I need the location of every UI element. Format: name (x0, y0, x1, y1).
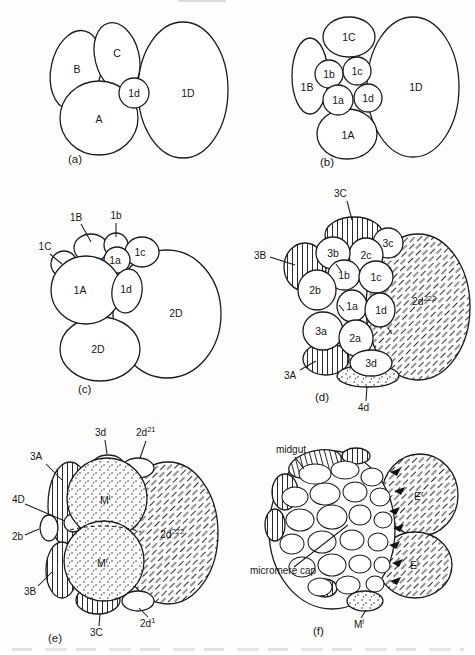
label-1A: 1A (342, 129, 355, 141)
cropped-caption-remnant (12, 648, 464, 651)
label-1c: 1c (134, 246, 145, 258)
label-1d: 1d (128, 87, 140, 99)
ext-label-2d1: 2d1 (139, 608, 155, 629)
panel-d: 3b 2c 3c 1b 1c 2b 1a 1d 3a 2a 3d 2d222 3… (240, 180, 475, 415)
ext-label-Ml: Ml (354, 610, 366, 630)
label-3C: 3C (90, 627, 103, 638)
label-1a: 1a (109, 254, 121, 266)
label-2d1: 2d1 (140, 616, 155, 629)
panel-tag-a: (a) (68, 153, 82, 165)
label-3d: 3d (365, 357, 377, 369)
label-4d: 4d (358, 402, 369, 413)
label-1b: 1b (323, 68, 335, 80)
cell-2b-shape (40, 515, 58, 541)
label-1d: 1d (362, 92, 374, 104)
label-1b: 1b (338, 269, 350, 281)
cell-1D: 1D (138, 22, 228, 158)
label-2b: 2b (309, 284, 321, 296)
panel-tag-f: (f) (313, 625, 324, 637)
panel-tag-b: (b) (320, 156, 334, 168)
label-3c: 3c (382, 237, 393, 249)
label-1a: 1a (332, 94, 344, 106)
label-1d: 1d (375, 304, 387, 316)
label-2c: 2c (360, 249, 371, 261)
label-1C: 1C (39, 241, 52, 252)
ext-label-4d: 4d (358, 386, 369, 413)
label-3b: 3b (327, 247, 339, 259)
label-3d: 3d (95, 427, 106, 438)
label-3A: 3A (284, 370, 297, 381)
ext-label-3C: 3C (90, 614, 103, 638)
label-A: A (95, 113, 102, 125)
panel-tag-d: (d) (315, 391, 329, 403)
pointer-line (105, 440, 107, 454)
label-3B: 3B (254, 250, 267, 261)
ext-label-3d: 3d (95, 427, 107, 454)
label-1c: 1c (351, 65, 362, 77)
figure-page: 1D B C A 1d (a) 1D 1C 1B 1A 1 (0, 0, 475, 655)
ext-label-3C: 3C (334, 188, 352, 220)
label-2a: 2a (349, 332, 361, 344)
label-2D-lower: 2D (91, 343, 105, 355)
label-1B: 1B (70, 212, 83, 223)
label-4D: 4D (12, 494, 25, 505)
midgut-rim-cell (265, 509, 285, 541)
panel-b: 1D 1C 1B 1A 1b 1c 1a 1d (b) (250, 2, 472, 182)
label-3B: 3B (24, 586, 37, 597)
panel-tag-c: (c) (78, 383, 92, 395)
cell-1d: 1d (119, 78, 149, 108)
panel-e: Ml Mr 2d222 3d 2d21 3A 4D 2b 3B 3C (10, 420, 245, 655)
label-3C: 3C (334, 188, 347, 199)
panel-tag-e: (e) (48, 632, 62, 644)
ext-label-3A: 3A (30, 451, 62, 480)
label-1d: 1d (120, 283, 132, 295)
label-2b: 2b (12, 531, 24, 542)
pointer-line (140, 441, 146, 458)
panel-a: 1D B C A 1d (a) (30, 2, 250, 182)
label-2D-right: 2D (169, 307, 183, 319)
cell-Ml-shape (347, 591, 383, 611)
pointer-line (366, 386, 367, 401)
pointer-line (99, 614, 100, 626)
label-C: C (113, 47, 121, 59)
pointer-line (25, 529, 39, 535)
label-3a: 3a (315, 325, 327, 337)
panel-c: 2D 2D 1a 1c 1A 1d 1B 1b 1C (c) (10, 186, 240, 396)
label-1A: 1A (74, 284, 87, 296)
label-2d21: 2d21 (136, 425, 155, 438)
label-1D: 1D (409, 81, 423, 93)
label-Ml: Ml (354, 617, 364, 630)
ext-label-2b: 2b (12, 529, 39, 542)
label-1D: 1D (181, 87, 195, 99)
label-1b: 1b (110, 210, 122, 221)
label-B: B (73, 63, 80, 75)
label-midgut: midgut (276, 444, 306, 455)
panel-f: Er El midgut micromere cap Ml (f) (240, 422, 473, 655)
label-1B: 1B (301, 81, 314, 93)
label-3A: 3A (30, 451, 43, 462)
label-1c: 1c (370, 271, 381, 283)
label-micromere-cap: micromere cap (250, 565, 317, 576)
label-1C: 1C (342, 31, 356, 43)
ext-label-2d21: 2d21 (136, 425, 155, 458)
label-1a: 1a (346, 300, 358, 312)
